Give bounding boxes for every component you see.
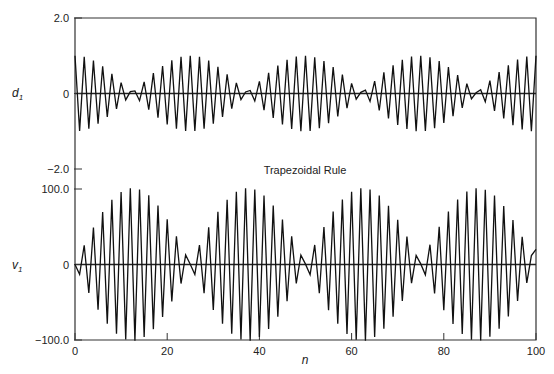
x-tick-label: 40 [253, 345, 265, 357]
y-tick-label: 2.0 [54, 12, 69, 24]
x-tick-label: 60 [345, 345, 357, 357]
x-tick-label: 20 [161, 345, 173, 357]
x-tick-label: 0 [72, 345, 78, 357]
y-tick-label: −2.0 [47, 163, 69, 175]
y-tick-label: −100.0 [35, 334, 69, 346]
x-ticks: 020406080100 [72, 333, 545, 357]
x-tick-label: 80 [438, 345, 450, 357]
y-tick-label: 0 [63, 259, 69, 271]
bottom-panel: 100.00−100.0 020406080100 v1 n [12, 169, 545, 367]
y-tick-label: 0 [63, 88, 69, 100]
d1-axis-label: d1 [12, 86, 23, 102]
x-axis-label: n [302, 353, 309, 367]
chart-canvas: 2.00−2.0 d1 Trapezoidal Rule 100.00−100.… [0, 0, 554, 374]
v1-axis-label: v1 [12, 258, 22, 274]
y-tick-label: 100.0 [41, 183, 69, 195]
chart-title: Trapezoidal Rule [264, 164, 347, 176]
x-tick-label: 100 [527, 345, 545, 357]
top-panel: 2.00−2.0 d1 [12, 12, 536, 175]
